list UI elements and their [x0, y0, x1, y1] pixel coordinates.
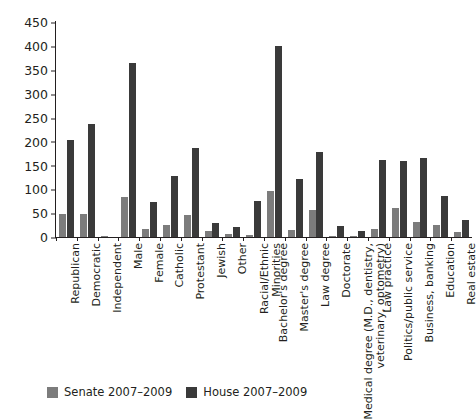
x-axis-label: Real estate [466, 243, 476, 305]
y-axis-tick: 300 [24, 84, 56, 103]
bar-senate [205, 231, 212, 237]
x-axis-label-line: Other [236, 243, 249, 274]
bar-house [233, 227, 240, 237]
bar-house [379, 160, 386, 237]
bar-senate [142, 229, 149, 237]
x-axis-tick-mark [202, 237, 203, 241]
x-axis-label-line: Independent [111, 243, 124, 313]
x-axis-label: Other [237, 243, 249, 274]
x-axis-label-line: Real estate [465, 243, 476, 305]
legend-item: Senate 2007–2009 [47, 387, 172, 399]
y-axis-tick-label: 200 [24, 136, 48, 149]
y-axis-tick-label: 250 [24, 112, 48, 125]
bar-senate [392, 208, 399, 237]
x-axis-label-line: Female [153, 243, 166, 283]
house-swatch [186, 387, 197, 398]
x-axis-tick-mark [243, 237, 244, 241]
y-axis-tick: 350 [24, 60, 56, 79]
x-axis-label-line: Law degree [319, 243, 332, 307]
bar-senate [80, 214, 87, 237]
bar-senate [184, 215, 191, 237]
x-axis-label-line: Republican [69, 243, 82, 304]
x-axis-tick-mark [285, 237, 286, 241]
bar-senate [163, 225, 170, 237]
x-axis-label-line: Medical degree (M.D., dentistry, [362, 243, 375, 420]
bar-house [150, 202, 157, 237]
bar-senate [371, 229, 378, 237]
y-axis-tick-label: 450 [24, 17, 48, 30]
y-axis-tick: 400 [24, 36, 56, 55]
x-axis-label: Bachelor's degree [278, 243, 290, 342]
y-axis-tick-label: 150 [24, 160, 48, 173]
x-axis-label-line: Jewish [215, 243, 228, 278]
bar-senate [121, 197, 128, 237]
x-axis-label: Law practice [382, 243, 394, 313]
x-axis-label-line: Master's degree [298, 243, 311, 331]
bar-house [316, 152, 323, 237]
y-axis-tick: 450 [24, 13, 56, 32]
legend-label: Senate 2007–2009 [64, 387, 172, 399]
y-axis-tick-label: 100 [24, 184, 48, 197]
x-axis-label: Doctorate [341, 243, 353, 298]
x-axis-tick-mark [347, 237, 348, 241]
y-axis-tick: 0 [40, 228, 56, 247]
x-axis-label-line: Bachelor's degree [277, 243, 290, 342]
x-axis-label: Protestant [195, 243, 207, 300]
x-axis-label: Education [445, 243, 457, 298]
x-axis-label: Male [133, 243, 145, 269]
bar-senate [225, 234, 232, 237]
bar-house [296, 179, 303, 237]
bar-house [462, 220, 469, 237]
bar-house [254, 201, 261, 237]
legend-item: House 2007–2009 [186, 387, 307, 399]
x-axis-tick-mark [264, 237, 265, 241]
y-axis-tick: 100 [24, 180, 56, 199]
y-axis-tick: 250 [24, 108, 56, 127]
legend-label: House 2007–2009 [203, 387, 307, 399]
x-axis-tick-mark [98, 237, 99, 241]
x-axis-label-line: Politics/public service [402, 243, 415, 361]
y-axis-tick-label: 0 [40, 232, 48, 245]
x-axis-label-line: Male [132, 243, 145, 269]
x-axis-tick-mark [139, 237, 140, 241]
x-axis-label-line: Catholic [173, 243, 186, 288]
x-axis-tick-mark [389, 237, 390, 241]
bar-senate [454, 232, 461, 237]
x-axis-label: Law degree [320, 243, 332, 307]
x-axis-tick-mark [181, 237, 182, 241]
plot-area: 050100150200250300350400450 [56, 22, 472, 237]
bar-house [441, 196, 448, 237]
bar-house [88, 124, 95, 237]
x-axis-tick-mark [451, 237, 452, 241]
x-axis-tick-mark [56, 237, 57, 241]
x-axis-label-line: Racial/Ethnic [258, 243, 271, 314]
chart-legend: Senate 2007–2009House 2007–2009 [47, 387, 307, 399]
bar-senate [309, 210, 316, 237]
x-axis-label-line: Democratic [90, 243, 103, 306]
bar-house [275, 46, 282, 237]
bar-house [192, 148, 199, 237]
x-axis-tick-mark [118, 237, 119, 241]
bars-layer [56, 22, 472, 237]
x-axis-label: Catholic [174, 243, 186, 288]
x-axis-label-line: Law practice [381, 243, 394, 313]
bar-senate [267, 191, 274, 237]
bar-senate [288, 230, 295, 237]
x-axis-label: Jewish [216, 243, 228, 278]
bar-house [337, 226, 344, 237]
bar-house [358, 231, 365, 237]
bar-senate [59, 214, 66, 237]
x-axis-label: Independent [112, 243, 124, 313]
x-axis-label: Master's degree [299, 243, 311, 331]
y-axis-tick-label: 50 [32, 208, 48, 221]
bar-house [171, 176, 178, 237]
x-axis-tick-mark [160, 237, 161, 241]
y-axis-tick: 150 [24, 156, 56, 175]
x-axis-label: Republican [70, 243, 82, 304]
x-axis-label: Politics/public service [403, 243, 415, 361]
y-axis-tick-label: 400 [24, 41, 48, 54]
bar-senate [433, 225, 440, 237]
senate-swatch [47, 387, 58, 398]
x-axis-tick-mark [306, 237, 307, 241]
